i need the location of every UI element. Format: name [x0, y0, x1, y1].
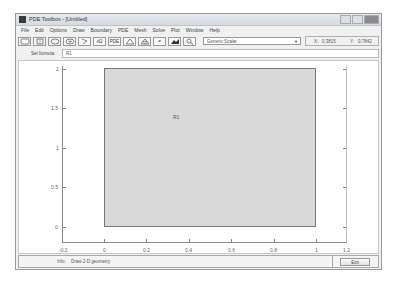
y-tick-mark [63, 227, 66, 228]
rectangle-icon [20, 38, 30, 45]
menu-edit[interactable]: Edit [35, 26, 44, 35]
x-tick-label: 0.4 [185, 247, 192, 253]
boundary-mode-button[interactable]: ∂Ω [93, 37, 106, 46]
x-tick-label: 0.2 [143, 247, 150, 253]
refine-mesh-icon [140, 38, 150, 45]
coordinate-readout: X: 0.3815 Y: 0.7842 [305, 36, 379, 46]
menu-solve[interactable]: Solve [153, 26, 166, 35]
menu-options[interactable]: Options [50, 26, 67, 35]
menu-help[interactable]: Help [209, 26, 219, 35]
axes[interactable]: R1 0 0.5 1 1.5 2 -0.2 0 [62, 66, 347, 243]
y-tick-label: 1.5 [51, 105, 58, 111]
y-tick-mark [63, 108, 66, 109]
ellipse-centered-icon [65, 38, 75, 45]
y-tick-mark [343, 148, 346, 149]
x-tick-label: 1 [315, 247, 318, 253]
x-tick-label: 0.8 [270, 247, 277, 253]
menu-window[interactable]: Window [186, 26, 204, 35]
x-coord-label: X: [314, 37, 318, 46]
menu-plot[interactable]: Plot [171, 26, 180, 35]
x-tick-mark [316, 239, 317, 242]
title-bar: PDE Toolbox - [Untitled] [16, 14, 381, 26]
plot-icon [170, 38, 180, 45]
menu-pde[interactable]: PDE [118, 26, 128, 35]
minimize-button[interactable] [340, 15, 351, 24]
y-tick-mark [343, 108, 346, 109]
y-tick-mark [343, 227, 346, 228]
polygon-icon [80, 38, 90, 45]
window-title: PDE Toolbox - [Untitled] [29, 15, 87, 24]
ellipse-icon [50, 38, 60, 45]
chevron-down-icon: ▼ [294, 38, 298, 46]
info-label: Info: [57, 258, 66, 266]
x-tick-label: -0.2 [59, 247, 68, 253]
pde-spec-button[interactable]: PDE [108, 37, 121, 46]
draw-polygon-button[interactable] [78, 37, 91, 46]
x-tick-mark [189, 239, 190, 242]
draw-ellipse-button[interactable] [48, 37, 61, 46]
menu-draw[interactable]: Draw [73, 26, 85, 35]
y-tick-mark [343, 69, 346, 70]
init-mesh-icon [125, 38, 135, 45]
geometry-rectangle-r1[interactable] [104, 68, 316, 227]
menu-bar: File Edit Options Draw Boundary PDE Mesh… [16, 26, 381, 35]
zoom-button[interactable] [183, 37, 196, 46]
y-coord-label: Y: [350, 37, 354, 46]
shape-label: R1 [173, 114, 179, 120]
maximize-button[interactable] [352, 15, 363, 24]
status-bar: Info: Draw 2-D geometry. Exit [18, 255, 379, 268]
x-tick-mark [104, 239, 105, 242]
x-tick-label: 1.2 [343, 247, 350, 253]
zoom-icon [185, 38, 195, 45]
application-mode-dropdown[interactable]: Generic Scalar ▼ [203, 37, 301, 45]
pde-toolbox-window: PDE Toolbox - [Untitled] File Edit Optio… [15, 13, 382, 270]
draw-rectangle-centered-button[interactable] [33, 37, 46, 46]
divider [332, 256, 333, 267]
refine-mesh-button[interactable] [138, 37, 151, 46]
draw-ellipse-centered-button[interactable] [63, 37, 76, 46]
y-tick-mark [63, 187, 66, 188]
plot-button[interactable] [168, 37, 181, 46]
set-formula-row: Set formula: R1 [18, 48, 379, 59]
rectangle-centered-icon [35, 38, 45, 45]
x-tick-label: 0 [103, 247, 106, 253]
y-tick-label: 2 [56, 66, 59, 72]
app-icon [19, 16, 26, 23]
draw-rectangle-button[interactable] [18, 37, 31, 46]
y-tick-mark [343, 187, 346, 188]
x-tick-label: 0.6 [228, 247, 235, 253]
y-tick-mark [63, 148, 66, 149]
y-tick-label: 0 [55, 224, 58, 230]
menu-file[interactable]: File [21, 26, 29, 35]
x-tick-mark [274, 239, 275, 242]
y-tick-label: 0.5 [51, 184, 58, 190]
x-coord-value: 0.3815 [322, 37, 336, 46]
solve-button[interactable]: = [153, 37, 166, 46]
init-mesh-button[interactable] [123, 37, 136, 46]
x-tick-mark [146, 239, 147, 242]
y-coord-value: 0.7842 [358, 37, 372, 46]
set-formula-input[interactable]: R1 [62, 49, 379, 58]
plot-area[interactable]: R1 0 0.5 1 1.5 2 -0.2 0 [18, 60, 379, 254]
menu-boundary[interactable]: Boundary [91, 26, 112, 35]
exit-button[interactable]: Exit [340, 258, 370, 266]
x-tick-mark [231, 239, 232, 242]
y-tick-label: 1 [56, 145, 59, 151]
application-mode-value: Generic Scalar [207, 39, 237, 44]
close-button[interactable] [364, 15, 379, 24]
y-tick-mark [63, 69, 66, 70]
info-text: Draw 2-D geometry. [71, 258, 111, 266]
menu-mesh[interactable]: Mesh [134, 26, 146, 35]
set-formula-label: Set formula: [31, 49, 55, 58]
